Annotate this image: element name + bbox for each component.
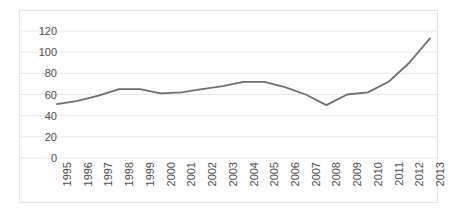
x-axis-tick-label: 1995 [62,162,73,186]
x-axis-tick-label: 2003 [228,162,239,186]
x-axis-tick-label: 2000 [166,162,177,186]
x-axis-tick-label: 2010 [373,162,384,186]
x-axis-tick-label: 2007 [311,162,322,186]
x-axis-tick-label: 2004 [249,162,260,186]
x-axis-tick-label: 1999 [145,162,156,186]
x-axis-tick-label: 2012 [414,162,425,186]
x-axis: 1995199619971998199920002001200220032004… [0,0,457,217]
x-axis-tick-label: 2013 [435,162,446,186]
x-axis-tick-label: 2001 [186,162,197,186]
x-axis-tick-label: 2011 [394,162,405,186]
x-axis-tick-label: 1996 [83,162,94,186]
x-axis-tick-label: 2008 [331,162,342,186]
x-axis-tick-label: 1998 [124,162,135,186]
x-axis-tick-label: 2002 [207,162,218,186]
x-axis-tick-label: 2009 [352,162,363,186]
x-axis-tick-label: 1997 [103,162,114,186]
x-axis-tick-label: 2006 [290,162,301,186]
x-axis-tick-label: 2005 [269,162,280,186]
